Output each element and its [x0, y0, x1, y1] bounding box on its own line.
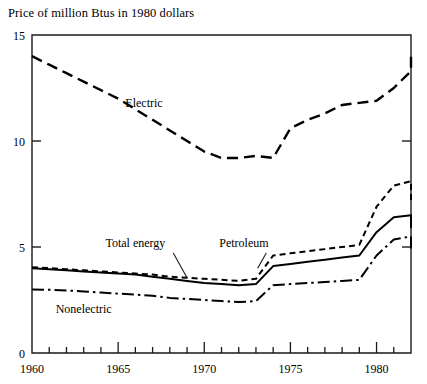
x-axis-tick-label: 1960	[20, 362, 44, 376]
chart-figure: Price of million Btus in 1980 dollars 05…	[0, 0, 427, 384]
x-axis-tick-label: 1965	[106, 362, 130, 376]
series-label-total-energy: Total energy	[105, 236, 165, 250]
series-label-petroleum: Petroleum	[219, 236, 269, 250]
y-axis-tick-label: 15	[13, 29, 25, 43]
y-axis-tick-label: 0	[19, 347, 25, 361]
series-line-petroleum	[32, 181, 411, 281]
series-label-nonelectric: Nonelectric	[56, 302, 112, 316]
chart-plot-area: 05101519601965197019751980 ElectricTotal…	[0, 0, 427, 384]
x-axis-tick-label: 1975	[278, 362, 302, 376]
y-axis-tick-label: 5	[19, 241, 25, 255]
series-line-electric	[32, 52, 411, 158]
series-label-electric: Electric	[125, 96, 162, 110]
x-axis-tick-label: 1970	[192, 362, 216, 376]
leader-line-total-energy	[173, 253, 187, 278]
x-axis-tick-label: 1980	[365, 362, 389, 376]
series-line-total-energy	[32, 215, 411, 285]
y-axis-tick-label: 10	[13, 135, 25, 149]
